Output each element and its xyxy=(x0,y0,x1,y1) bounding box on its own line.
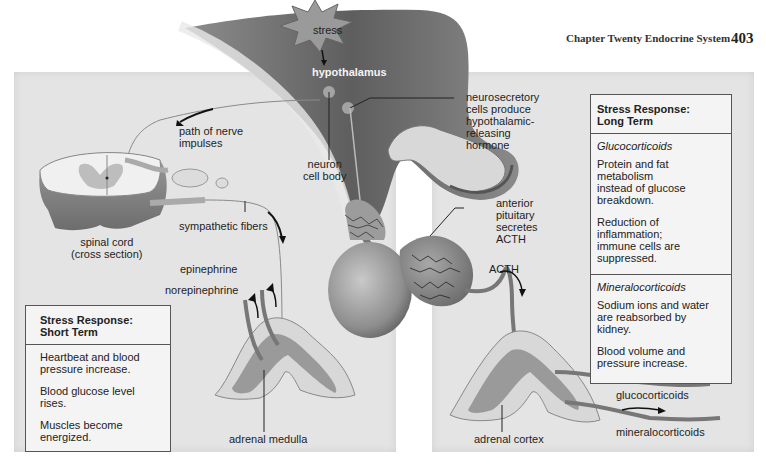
neurosecretory-label: neurosecretory cells produce hypothalami… xyxy=(466,91,539,151)
short-term-item: Muscles become energized. xyxy=(40,419,156,443)
glucocorticoids-section: Glucocorticoids Protein and fat metaboli… xyxy=(597,140,727,264)
long-term-box-body: Glucocorticoids Protein and fat metaboli… xyxy=(591,134,731,383)
stress-label: stress xyxy=(313,24,342,36)
long-term-item: Blood volume and pressure increase. xyxy=(597,345,717,369)
mineralocorticoids-label: mineralocorticoids xyxy=(616,426,705,438)
epinephrine-label: epinephrine xyxy=(180,263,238,275)
section-heading: Glucocorticoids xyxy=(597,140,727,152)
spinal-cord-label: spinal cord (cross section) xyxy=(71,236,143,260)
mineralocorticoids-section: Mineralocorticoids Sodium ions and water… xyxy=(591,274,731,369)
hypothalamus-label: hypothalamus xyxy=(312,66,387,78)
short-term-box-title: Stress Response: Short Term xyxy=(26,306,170,345)
anterior-pituitary-label: anterior pituitary secretes ACTH xyxy=(496,197,538,245)
path-of-nerve-impulses-label: path of nerve impulses xyxy=(179,125,243,149)
neuron-cell-body-label: neuron cell body xyxy=(303,158,346,182)
short-term-box-body: Heartbeat and blood pressure increase. B… xyxy=(26,345,170,451)
section-heading: Mineralocorticoids xyxy=(597,281,717,293)
short-term-response-box: Stress Response: Short Term Heartbeat an… xyxy=(25,305,171,452)
short-term-item: Heartbeat and blood pressure increase. xyxy=(40,351,156,375)
long-term-response-box: Stress Response: Long Term Glucocorticoi… xyxy=(590,94,732,384)
adrenal-cortex-label: adrenal cortex xyxy=(474,433,544,445)
short-term-item: Blood glucose level rises. xyxy=(40,385,156,409)
sympathetic-fibers-label: sympathetic fibers xyxy=(179,220,268,232)
long-term-item: Reduction of inflammation; immune cells … xyxy=(597,216,727,264)
posterior-pituitary xyxy=(328,242,412,338)
long-term-item: Protein and fat metabolism instead of gl… xyxy=(597,158,727,206)
adrenal-medulla-label: adrenal medulla xyxy=(229,433,307,445)
norepinephrine-label: norepinephrine xyxy=(165,284,238,296)
long-term-box-title: Stress Response: Long Term xyxy=(591,95,731,134)
long-term-item: Sodium ions and water are reabsorbed by … xyxy=(597,299,717,335)
acth-label: ACTH xyxy=(489,263,519,275)
glucocorticoids-label: glucocorticoids xyxy=(616,389,689,401)
